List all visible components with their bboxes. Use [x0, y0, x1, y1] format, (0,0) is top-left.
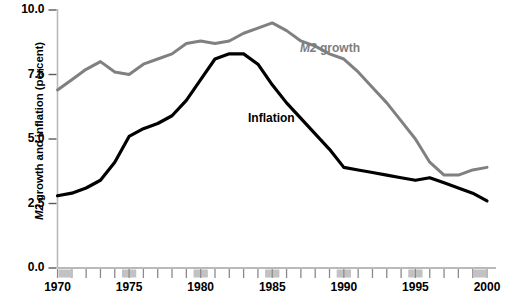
x-axis-tick-label-2: 1980: [178, 280, 224, 294]
axes-group: [58, 9, 497, 268]
x-axis-major-tick-block-0: [59, 270, 73, 278]
series-label-inflation: Inflation: [248, 111, 295, 125]
series-label-m2-italic: M2: [300, 41, 317, 55]
series-label-inflation-text: Inflation: [248, 111, 295, 125]
y-axis-tick-label-3: 7.5: [3, 67, 45, 81]
series-label-m2-rest: growth: [317, 41, 360, 55]
y-axis-tick-label-0: 0.0: [3, 260, 45, 274]
x-axis-tick-label-4: 1990: [321, 280, 367, 294]
x-axis-tick-label-1: 1975: [106, 280, 152, 294]
x-axis-tick-label-6: 2000: [464, 280, 505, 294]
series-label-m2-growth: M2 growth: [300, 41, 360, 55]
axis-ticks-group: [49, 10, 488, 278]
y-axis-tick-label-1: 2.5: [3, 196, 45, 210]
y-axis-tick-label-2: 5.0: [3, 131, 45, 145]
x-axis-tick-label-5: 1995: [392, 280, 438, 294]
x-axis-tick-label-3: 1985: [249, 280, 295, 294]
x-axis-major-tick-block-6: [473, 270, 486, 278]
y-axis-tick-label-4: 10.0: [3, 2, 45, 16]
series-line-inflation: [58, 54, 488, 201]
x-axis-tick-label-0: 1970: [35, 280, 81, 294]
